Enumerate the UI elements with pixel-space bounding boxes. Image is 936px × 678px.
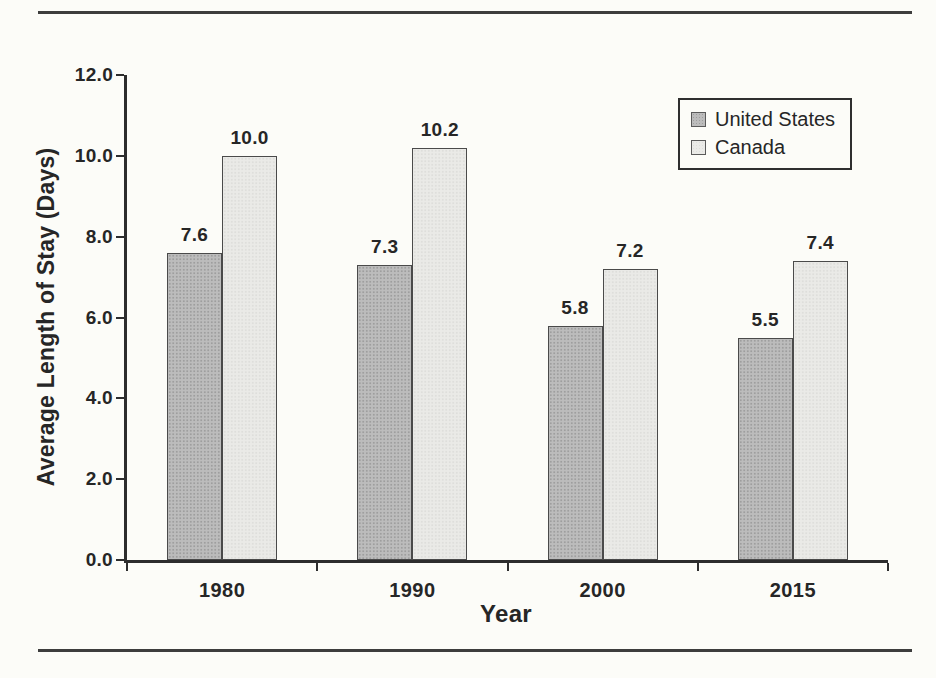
top-rule [38,11,912,14]
legend-item-canada: Canada [691,136,835,159]
plot-area: United StatesCanada 0.02.04.06.08.010.01… [124,75,888,563]
x-axis-category-label: 1980 [127,579,317,602]
legend: United StatesCanada [678,98,852,170]
y-axis-tick-label: 2.0 [86,468,113,490]
bar-value-label: 5.8 [561,297,588,319]
y-axis-tick-label: 8.0 [86,226,113,248]
x-axis-tick [316,563,318,571]
bar-canada-2000 [603,269,658,560]
bottom-rule [38,649,912,652]
x-axis-tick [126,563,128,571]
legend-swatch-canada [691,140,706,155]
bar-united-states-2000 [548,326,603,560]
bar-united-states-1990 [357,265,412,560]
y-axis-tick [116,236,124,238]
y-axis-title: Average Length of Stay (Days) [33,148,60,487]
y-axis-tick [116,317,124,319]
figure-page: Average Length of Stay (Days) United Sta… [0,0,936,678]
bar-value-label: 7.6 [181,224,208,246]
bar-canada-2015 [793,261,848,560]
y-axis-tick [116,478,124,480]
legend-label: United States [715,108,835,131]
bar-value-label: 7.3 [371,236,398,258]
y-axis-tick-label: 12.0 [75,64,113,86]
y-axis-tick [116,559,124,561]
bar-canada-1990 [412,148,467,560]
bar-value-label: 7.2 [616,240,643,262]
x-axis-tick [887,563,889,571]
x-axis-category-label: 2000 [508,579,698,602]
y-axis-tick-label: 6.0 [86,307,113,329]
y-axis-tick [116,155,124,157]
x-axis-tick [507,563,509,571]
legend-item-united-states: United States [691,108,835,131]
x-axis-category-label: 1990 [317,579,507,602]
y-axis-tick-label: 0.0 [86,549,113,571]
y-axis-tick [116,397,124,399]
y-axis-tick [116,74,124,76]
y-axis-tick-label: 4.0 [86,387,113,409]
x-axis-category-label: 2015 [698,579,888,602]
bar-united-states-1980 [167,253,222,560]
x-axis-tick [697,563,699,571]
bar-canada-1980 [222,156,277,560]
bar-value-label: 5.5 [752,309,779,331]
legend-label: Canada [715,136,785,159]
bar-value-label: 10.0 [230,127,268,149]
bar-value-label: 7.4 [807,232,834,254]
legend-swatch-united-states [691,112,706,127]
x-axis-title: Year [480,600,532,628]
y-axis-tick-label: 10.0 [75,145,113,167]
bar-value-label: 10.2 [421,119,459,141]
bar-united-states-2015 [738,338,793,560]
